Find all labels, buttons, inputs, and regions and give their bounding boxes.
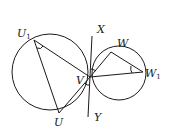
label-u1: U1 [17, 27, 31, 41]
angle-mark-w1 [131, 66, 132, 73]
geometry-diagram: U1 X W W1 V U Y [0, 0, 170, 134]
label-w1: W1 [145, 67, 161, 81]
label-x: X [96, 23, 106, 36]
label-u: U [54, 116, 64, 129]
segment-w-w1 [111, 52, 143, 72]
label-v: V [76, 74, 85, 87]
segment-u-v [59, 77, 90, 113]
angle-mark-u1 [37, 46, 43, 49]
large-circle [12, 34, 88, 110]
label-w: W [117, 37, 130, 50]
segment-w1-v [90, 72, 143, 77]
label-y: Y [94, 111, 103, 124]
segment-u1-v [34, 40, 90, 77]
small-circle [92, 46, 146, 100]
segment-u1-u [34, 40, 59, 113]
